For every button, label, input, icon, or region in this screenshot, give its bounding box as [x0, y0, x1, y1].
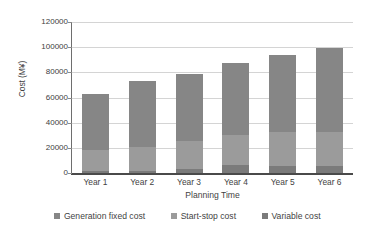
bar-segment[interactable]	[269, 132, 296, 167]
bar-segment[interactable]	[222, 165, 249, 173]
bar-segment[interactable]	[176, 74, 203, 142]
stacked-bar[interactable]	[176, 74, 203, 173]
y-tick-mark	[68, 173, 72, 174]
chart-legend: Generation fixed costStart-stop costVari…	[0, 208, 375, 224]
bar-segment[interactable]	[176, 169, 203, 173]
y-tick-label: 40000	[24, 119, 68, 127]
bar-segment[interactable]	[269, 55, 296, 132]
bar-segment[interactable]	[82, 150, 109, 171]
y-tick-label: 0	[24, 169, 68, 177]
bar-segment[interactable]	[129, 81, 156, 147]
x-tick-label: Year 5	[259, 176, 306, 189]
bar-group	[72, 22, 353, 173]
y-axis-tick-labels: 120000100000800006000040000200000	[24, 0, 68, 232]
legend-swatch-icon	[54, 213, 60, 219]
bar-slot	[259, 22, 306, 173]
legend-item[interactable]: Generation fixed cost	[54, 211, 145, 221]
bar-segment[interactable]	[82, 94, 109, 150]
stacked-bar[interactable]	[222, 63, 249, 173]
bar-segment[interactable]	[222, 63, 249, 135]
bar-segment[interactable]	[129, 171, 156, 173]
stacked-bar-chart: Cost (M¥) 120000100000800006000040000200…	[0, 0, 375, 232]
bar-slot	[119, 22, 166, 173]
y-tick-label: 80000	[24, 68, 68, 76]
bar-slot	[166, 22, 213, 173]
bar-slot	[213, 22, 260, 173]
x-tick-label: Year 1	[72, 176, 119, 189]
bar-slot	[306, 22, 353, 173]
y-tick-label: 100000	[24, 43, 68, 51]
legend-item[interactable]: Start-stop cost	[171, 211, 236, 221]
bar-segment[interactable]	[176, 141, 203, 169]
y-tick-label: 60000	[24, 94, 68, 102]
plot-area	[72, 22, 353, 173]
bar-segment[interactable]	[222, 135, 249, 165]
x-tick-label: Year 2	[119, 176, 166, 189]
bar-segment[interactable]	[269, 166, 296, 173]
legend-label: Generation fixed cost	[64, 211, 145, 221]
y-tick-label: 20000	[24, 144, 68, 152]
x-axis-tick-labels: Year 1Year 2Year 3Year 4Year 5Year 6	[72, 176, 353, 189]
bar-segment[interactable]	[129, 147, 156, 171]
bar-segment[interactable]	[316, 166, 343, 173]
legend-swatch-icon	[171, 213, 177, 219]
bar-segment[interactable]	[316, 132, 343, 167]
stacked-bar[interactable]	[82, 94, 109, 173]
bar-segment[interactable]	[82, 171, 109, 173]
legend-label: Variable cost	[272, 211, 321, 221]
stacked-bar[interactable]	[269, 55, 296, 173]
x-axis-line	[71, 173, 353, 175]
x-tick-label: Year 3	[166, 176, 213, 189]
legend-swatch-icon	[262, 213, 268, 219]
x-axis-title: Planning Time	[72, 190, 353, 200]
x-tick-label: Year 6	[306, 176, 353, 189]
legend-item[interactable]: Variable cost	[262, 211, 321, 221]
stacked-bar[interactable]	[316, 48, 343, 173]
legend-label: Start-stop cost	[181, 211, 236, 221]
bar-segment[interactable]	[316, 48, 343, 131]
y-tick-label: 120000	[24, 18, 68, 26]
bar-slot	[72, 22, 119, 173]
stacked-bar[interactable]	[129, 81, 156, 173]
x-tick-label: Year 4	[213, 176, 260, 189]
